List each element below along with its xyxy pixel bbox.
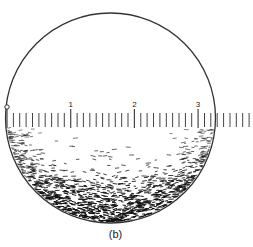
scale-label: 3	[196, 100, 201, 109]
scale-label: 2	[132, 100, 137, 109]
scale-labels: 123	[68, 100, 200, 109]
microscope-field-diagram: 123	[0, 0, 253, 247]
scale-label: 1	[68, 100, 73, 109]
figure-caption: (b)	[0, 228, 231, 240]
stipple-shading	[7, 128, 217, 223]
scale-origin-marker	[5, 105, 9, 109]
measurement-scale	[7, 109, 249, 128]
